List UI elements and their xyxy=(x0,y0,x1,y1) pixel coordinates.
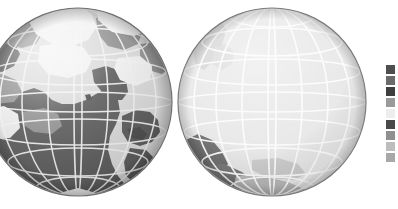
right-globe xyxy=(178,5,366,200)
left-globe xyxy=(0,0,172,208)
legend-swatch-6[interactable] xyxy=(385,130,396,141)
legend-swatch-2[interactable] xyxy=(385,86,396,97)
legend-swatch-1[interactable] xyxy=(385,75,396,86)
right-globe-rim-shadow xyxy=(178,8,366,196)
legend-swatch-5[interactable] xyxy=(385,119,396,130)
legend-swatch-7[interactable] xyxy=(385,141,396,152)
left-globe-surface xyxy=(0,0,172,208)
left-globe-rim-shadow xyxy=(0,8,172,196)
legend-swatch-0[interactable] xyxy=(385,64,396,75)
color-scale-legend xyxy=(385,64,396,163)
globe-figure-canvas xyxy=(0,0,398,209)
globe-pair-svg xyxy=(0,0,398,209)
legend-swatch-3[interactable] xyxy=(385,97,396,108)
legend-swatch-4[interactable] xyxy=(385,108,396,119)
legend-swatch-8[interactable] xyxy=(385,152,396,163)
